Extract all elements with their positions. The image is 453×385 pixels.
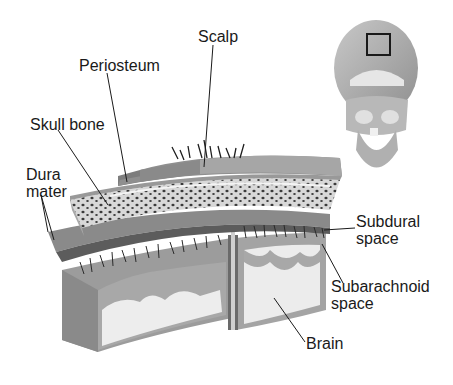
skull-inset: [334, 20, 418, 168]
label-subarachnoid-line2: space: [331, 295, 430, 312]
diagram-stage: Scalp Periosteum Skull bone Dura mater S…: [0, 0, 453, 385]
label-subdural-line1: Subdural: [356, 213, 420, 230]
label-brain: Brain: [306, 335, 343, 352]
label-subarachnoid-line1: Subarachnoid: [331, 278, 430, 295]
label-skull-bone: Skull bone: [30, 116, 105, 133]
label-subdural-space: Subdural space: [356, 213, 420, 247]
label-dura-mater: Dura mater: [26, 166, 67, 200]
label-subarachnoid-space: Subarachnoid space: [331, 278, 430, 312]
label-dura-mater-line1: Dura: [26, 166, 67, 183]
label-dura-mater-line2: mater: [26, 183, 67, 200]
label-scalp: Scalp: [198, 28, 238, 45]
label-periosteum: Periosteum: [79, 57, 160, 74]
label-subdural-line2: space: [356, 230, 420, 247]
anatomy-illustration: [0, 0, 453, 385]
